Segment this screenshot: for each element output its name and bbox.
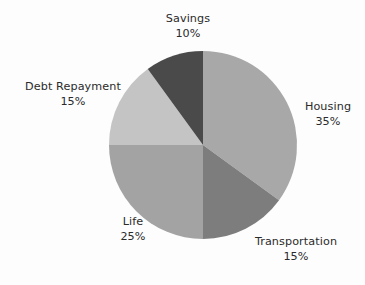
pie-label-housing-percent: 35% xyxy=(292,115,364,130)
pie-label-debt-repayment: Debt Repayment 15% xyxy=(8,80,138,109)
pie-chart: Savings 10% Debt Repayment 15% Housing 3… xyxy=(0,0,365,285)
pie-label-savings-percent: 10% xyxy=(148,27,228,42)
pie-label-transportation-name: Transportation xyxy=(240,235,352,250)
pie-label-life: Life 25% xyxy=(100,215,166,244)
pie-label-life-percent: 25% xyxy=(100,230,166,245)
pie-label-savings-name: Savings xyxy=(148,12,228,27)
pie-label-transportation-percent: 15% xyxy=(240,250,352,265)
pie-label-debt-repayment-percent: 15% xyxy=(8,95,138,110)
pie-label-transportation: Transportation 15% xyxy=(240,235,352,264)
pie-label-savings: Savings 10% xyxy=(148,12,228,41)
pie-label-housing: Housing 35% xyxy=(292,100,364,129)
pie-label-life-name: Life xyxy=(100,215,166,230)
pie-label-housing-name: Housing xyxy=(292,100,364,115)
pie-label-debt-repayment-name: Debt Repayment xyxy=(8,80,138,95)
